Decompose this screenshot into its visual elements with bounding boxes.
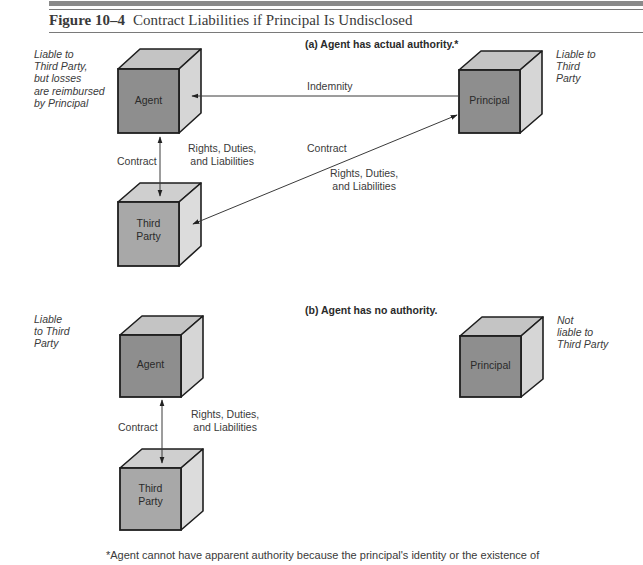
note-line: Liable to [556,48,596,60]
label-line: and Liabilities [191,421,259,434]
third-party-label-b: Third Party [120,482,181,508]
principal-liability-note-a: Liable to Third Party [556,48,596,85]
note-line: are reimbursed [34,85,105,97]
note-line: Party [556,72,596,84]
label-line: Rights, Duties, [191,408,259,421]
contract-label-a2: Contract [307,142,347,155]
panel-a-heading: (a) Agent has actual authority.* [305,38,458,50]
cube-agent-b [120,316,203,397]
label-line: Rights, Duties, [188,142,256,155]
agent-liability-note-b: Liable to Third Party [34,313,70,350]
label-line: Party [120,495,181,508]
note-line: Not [557,314,608,326]
label-line: and Liabilities [330,180,398,193]
note-line: Third Party [557,338,608,350]
note-line: liable to [557,326,608,338]
panel-b-heading: (b) Agent has no authority. [305,304,437,316]
note-line: Liable to [34,48,105,60]
footnote: *Agent cannot have apparent authority be… [106,549,539,561]
cube-agent-a [118,49,201,133]
label-line: Third [120,482,181,495]
label-line: Third [118,217,179,230]
note-line: by Principal [34,97,105,109]
principal-third-party-arrow [193,115,457,224]
agent-liability-note-a: Liable to Third Party, but losses are re… [34,48,105,109]
principal-label-b: Principal [460,359,521,372]
indemnity-label: Indemnity [307,80,353,93]
cube-principal-b [460,317,543,397]
note-line: but losses [34,72,105,84]
note-line: Third [556,60,596,72]
label-line: and Liabilities [188,155,256,168]
agent-label-b: Agent [120,358,181,371]
principal-label-a: Principal [459,94,520,107]
contract-label-b: Contract [118,421,158,434]
agent-label-a: Agent [118,94,179,107]
rights-duties-label-a2: Rights, Duties, and Liabilities [330,167,398,193]
note-line: to Third [34,325,70,337]
note-line: Liable [34,313,70,325]
rights-duties-label-b: Rights, Duties, and Liabilities [191,408,259,434]
principal-liability-note-b: Not liable to Third Party [557,314,608,351]
cube-principal-a [459,51,542,133]
rights-duties-label-a1: Rights, Duties, and Liabilities [188,142,256,168]
note-line: Party [34,337,70,349]
label-line: Party [118,230,179,243]
note-line: Third Party, [34,60,105,72]
label-line: Rights, Duties, [330,167,398,180]
contract-label-a1: Contract [117,155,157,168]
third-party-label-a: Third Party [118,217,179,243]
